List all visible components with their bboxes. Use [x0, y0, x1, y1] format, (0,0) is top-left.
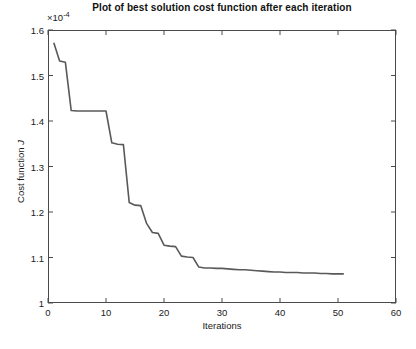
plot-canvas: [48, 30, 396, 303]
y-axis-title-text: Cost function: [15, 147, 26, 202]
y-tick-label: 1.5: [4, 70, 44, 81]
x-tick-label: 60: [381, 307, 411, 318]
cost-function-line: [54, 43, 344, 274]
y-tick-label: 1.6: [4, 25, 44, 36]
y-axis-title-symbol: J: [15, 140, 26, 145]
y-axis-exponent-base: ×10: [47, 12, 63, 23]
x-tick-label: 30: [207, 307, 237, 318]
y-tick-label: 1.1: [4, 252, 44, 263]
y-axis-exponent-label: ×10-4: [47, 12, 70, 23]
y-axis-title: Cost function J: [15, 102, 26, 242]
x-axis-title: Iterations: [48, 320, 396, 331]
x-tick-label: 50: [323, 307, 353, 318]
y-axis-exponent-power: -4: [63, 10, 70, 19]
x-tick-label: 10: [91, 307, 121, 318]
x-tick-label: 40: [265, 307, 295, 318]
chart-figure: Plot of best solution cost function afte…: [0, 0, 416, 349]
x-tick-label: 0: [33, 307, 63, 318]
chart-title: Plot of best solution cost function afte…: [48, 2, 396, 13]
x-tick-label: 20: [149, 307, 179, 318]
x-axis-ticks: [48, 30, 396, 303]
y-axis-ticks: [48, 30, 396, 303]
